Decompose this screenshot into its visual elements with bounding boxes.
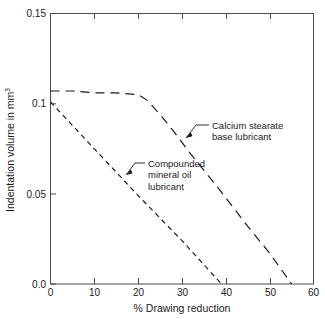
annotation-mineral-line-1: Compounded (148, 158, 205, 169)
annotation-mineral-line-3: lubricant (148, 181, 184, 192)
x-tick-label-60: 60 (308, 287, 320, 298)
y-tick-label-015: 0.15 (27, 8, 47, 19)
y-tick-label-00: 0.0 (32, 279, 46, 290)
y-tick-label-01: 0.1 (32, 98, 46, 109)
y-axis-title: Indentation volume in mm3 (4, 88, 16, 212)
y-axis-title-text: Indentation volume in mm (4, 91, 16, 211)
x-tick-label-0: 0 (48, 287, 54, 298)
x-axis-title: % Drawing reduction (134, 302, 231, 314)
x-tick-label-20: 20 (133, 287, 145, 298)
x-tick-label-30: 30 (177, 287, 189, 298)
annotation-mineral-line-2: mineral oil (148, 169, 191, 180)
y-axis-title-superscript: 3 (4, 88, 11, 92)
x-tick-label-50: 50 (265, 287, 277, 298)
y-axis-title-group: Indentation volume in mm3 (4, 88, 16, 212)
y-tick-label-005: 0.05 (27, 189, 47, 200)
x-tick-label-10: 10 (89, 287, 101, 298)
chart-figure: 0.15 0.1 0.05 0.0 0 10 20 30 40 50 60 % … (0, 0, 325, 319)
x-tick-label-40: 40 (221, 287, 233, 298)
annotation-calcium-line-1: Calcium stearate (212, 120, 283, 131)
annotation-calcium-line-2: base lubricant (212, 131, 272, 142)
chart-svg: 0.15 0.1 0.05 0.0 0 10 20 30 40 50 60 % … (0, 0, 325, 319)
